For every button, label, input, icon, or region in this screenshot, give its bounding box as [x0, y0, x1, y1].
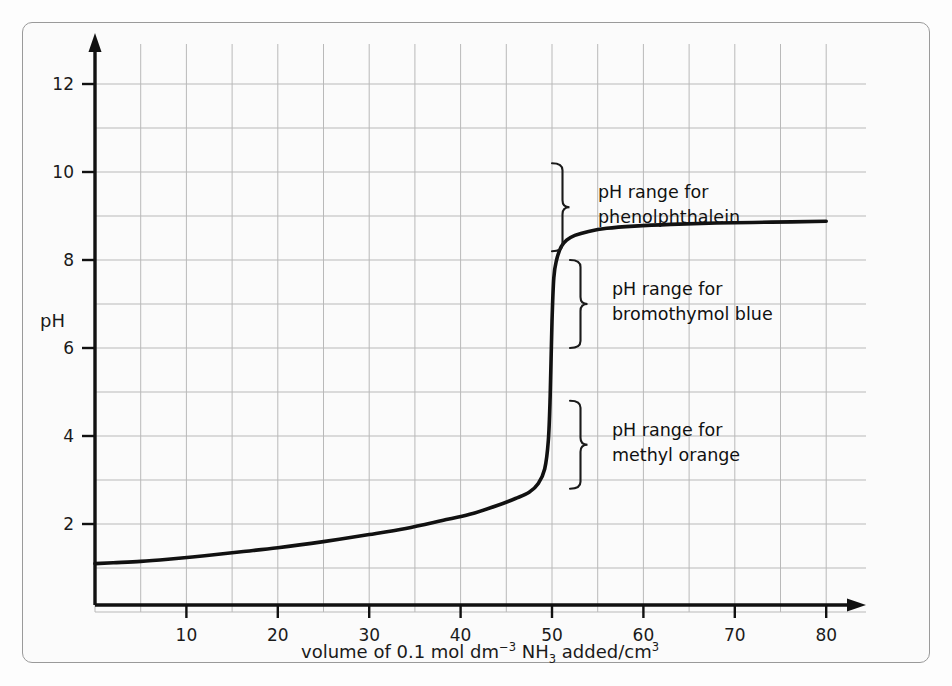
annotation-methyl-orange-line1: pH range for	[612, 420, 723, 440]
annotation-bromothymol-blue-line2: bromothymol blue	[612, 304, 773, 324]
x-tick-label: 80	[815, 625, 837, 645]
x-axis-title-sub1: 3	[549, 652, 556, 666]
y-tick-label: 10	[52, 162, 74, 182]
x-axis-title-part1: volume of 0.1 mol dm	[301, 641, 499, 662]
y-tick-label: 8	[63, 250, 74, 270]
annotation-methyl-orange-line2: methyl orange	[612, 445, 740, 465]
figure-container: 24681012 1020304050607080 pH volume of 0…	[0, 0, 952, 686]
x-tick-label: 20	[267, 625, 289, 645]
indicator-annotations: pH range forphenolphthaleinpH range forb…	[552, 163, 773, 489]
y-axis-title: pH	[40, 310, 65, 331]
ph-titration-chart: 24681012 1020304050607080 pH volume of 0…	[0, 0, 952, 686]
y-tick-label: 12	[52, 74, 74, 94]
y-tick-label: 4	[63, 426, 74, 446]
y-axis-arrow-icon	[89, 33, 102, 52]
x-axis-title: volume of 0.1 mol dm−3 NH3 added/cm3	[301, 640, 659, 666]
x-axis-title-part3: added/cm	[556, 641, 652, 662]
x-axis-arrow-icon	[847, 599, 866, 612]
x-axis-title-sup1: −3	[499, 640, 516, 654]
x-tick-label: 70	[724, 625, 746, 645]
y-tick-label: 6	[63, 338, 74, 358]
y-axis-ticks: 24681012	[52, 74, 95, 534]
annotation-phenolphthalein-line1: pH range for	[598, 182, 709, 202]
annotation-bromothymol-blue-line1: pH range for	[612, 279, 723, 299]
x-axis-title-sup2: 3	[652, 640, 659, 654]
brace-methyl-orange	[570, 401, 588, 489]
x-axis-title-part2: NH	[516, 641, 549, 662]
x-tick-label: 10	[176, 625, 198, 645]
y-tick-label: 2	[63, 514, 74, 534]
annotation-phenolphthalein-line2: phenolphthalein	[598, 207, 740, 227]
gridlines	[95, 44, 866, 612]
